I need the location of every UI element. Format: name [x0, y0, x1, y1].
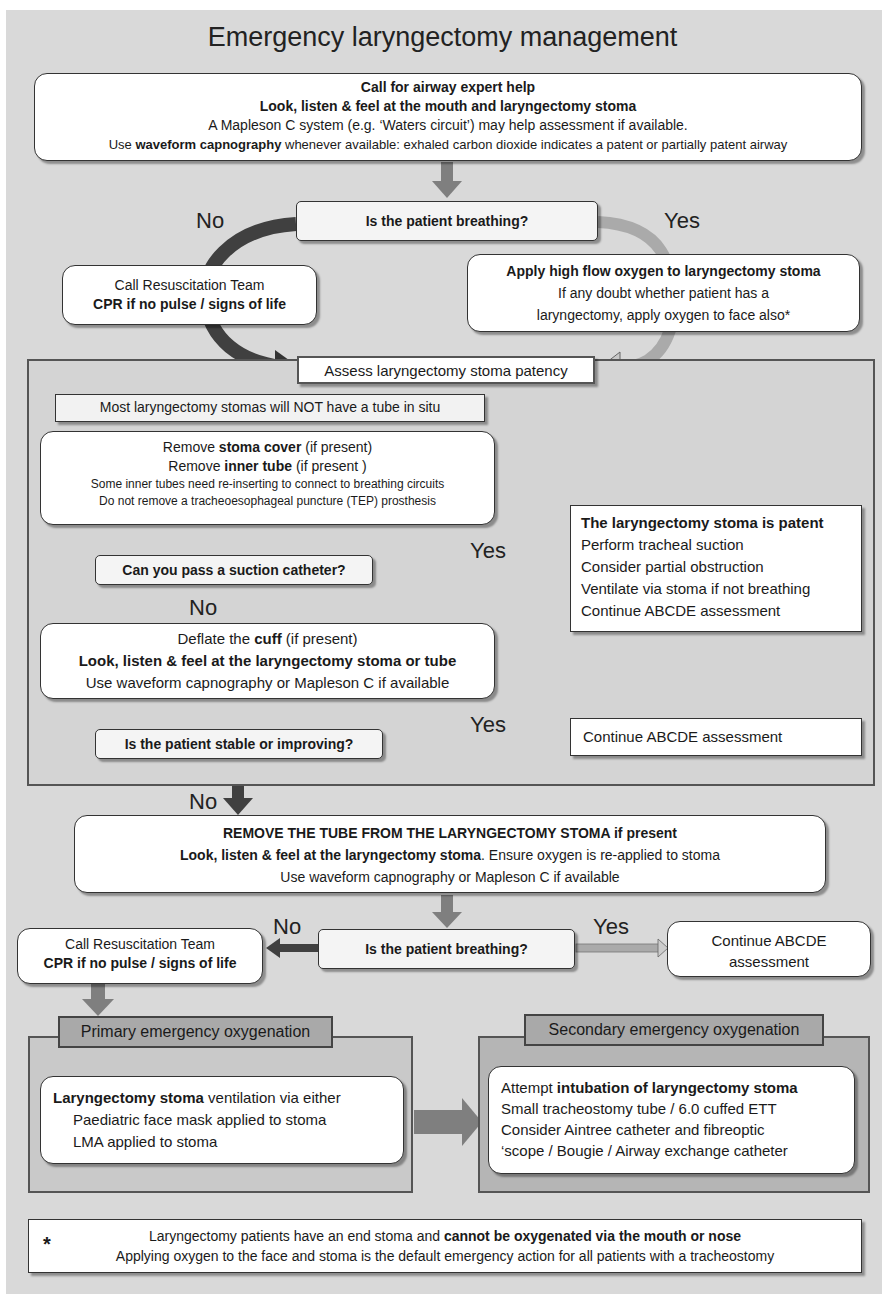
remove-tube-box: REMOVE THE TUBE FROM THE LARYNGECTOMY ST…: [74, 815, 826, 893]
asterisk-marker: *: [43, 1234, 51, 1254]
question-stable-improving: Is the patient stable or improving?: [95, 729, 383, 759]
initial-assessment-box: Call for airway expert help Look, listen…: [34, 73, 862, 161]
label-yes-4: Yes: [593, 914, 629, 940]
secondary-oxygenation-header: Secondary emergency oxygenation: [524, 1014, 824, 1046]
continue-abcde-box-1: Continue ABCDE assessment: [570, 718, 862, 756]
resuscitation-box-2: Call Resuscitation Team CPR if no pulse …: [17, 928, 263, 984]
label-no-1: No: [196, 208, 224, 234]
high-flow-oxygen-box: Apply high flow oxygen to laryngectomy s…: [467, 254, 860, 332]
question-breathing-1: Is the patient breathing?: [296, 201, 598, 241]
label-no-3: No: [189, 789, 217, 815]
deflate-cuff-box: Deflate the cuff (if present) Look, list…: [40, 623, 495, 699]
label-no-2: No: [189, 595, 217, 621]
call-expert-text: Call for airway expert help: [35, 78, 861, 97]
label-no-4: No: [273, 914, 301, 940]
assess-panel-header: Assess laryngectomy stoma patency: [297, 356, 595, 384]
stoma-patent-box: The laryngectomy stoma is patent Perform…: [570, 505, 862, 632]
label-yes-3: Yes: [470, 712, 506, 738]
no-tube-note: Most laryngectomy stomas will NOT have a…: [55, 394, 485, 422]
primary-oxygenation-header: Primary emergency oxygenation: [58, 1016, 333, 1048]
continue-abcde-box-2: Continue ABCDE assessment: [667, 921, 871, 977]
footnote-box: * Laryngectomy patients have an end stom…: [28, 1219, 862, 1273]
secondary-oxygenation-box: Attempt intubation of laryngectomy stoma…: [488, 1066, 855, 1174]
question-suction-catheter: Can you pass a suction catheter?: [95, 555, 373, 585]
label-yes-2: Yes: [470, 538, 506, 564]
primary-oxygenation-box: Laryngectomy stoma ventilation via eithe…: [40, 1076, 404, 1164]
label-yes-1: Yes: [664, 208, 700, 234]
capnography-text: Use waveform capnography whenever availa…: [35, 135, 861, 154]
page-title: Emergency laryngectomy management: [0, 22, 885, 53]
remove-cover-box: Remove stoma cover (if present) Remove i…: [40, 431, 495, 525]
question-breathing-2: Is the patient breathing?: [318, 929, 575, 969]
mapleson-text: A Mapleson C system (e.g. ‘Waters circui…: [35, 116, 861, 135]
resuscitation-box-1: Call Resuscitation Team CPR if no pulse …: [62, 265, 317, 325]
look-listen-text: Look, listen & feel at the mouth and lar…: [35, 97, 861, 116]
